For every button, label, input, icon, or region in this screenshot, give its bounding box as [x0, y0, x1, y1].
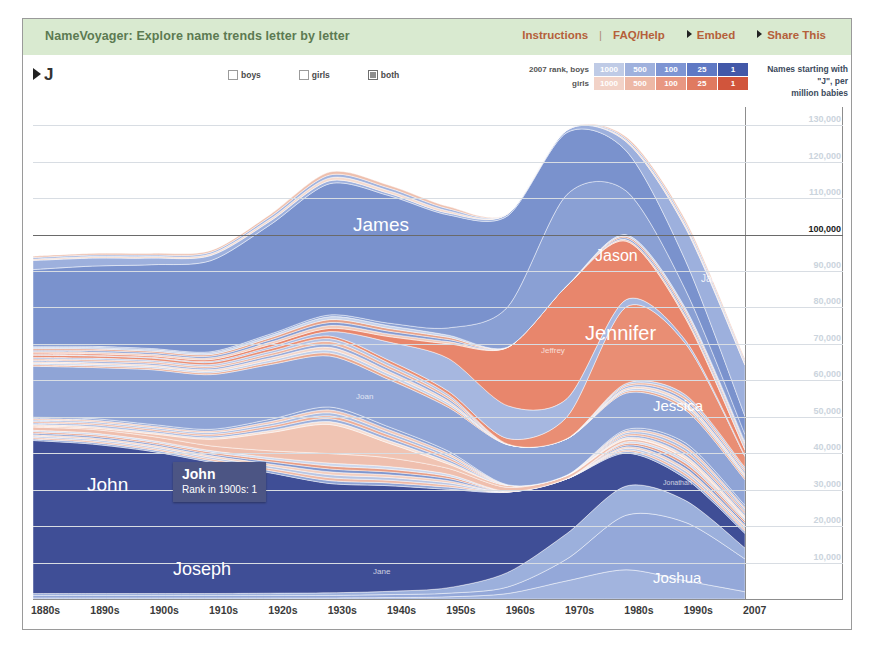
rank-swatch-girls-1000: 1000 [594, 77, 624, 90]
rank-legend-girls-label: girls [503, 77, 594, 90]
y-axis-caption: Names starting with "J", per million bab… [750, 63, 848, 99]
rank-legend-boys-row: 2007 rank, boys 1000 500 100 25 1 [503, 63, 749, 76]
checkbox-both-box[interactable] [368, 70, 378, 80]
page-title: NameVoyager: Explore name trends letter … [45, 29, 350, 43]
rank-swatch-boys-500: 500 [625, 63, 655, 76]
checkbox-girls-label: girls [312, 70, 330, 80]
x-tick-1990s: 1990s [684, 604, 713, 616]
checkbox-boys-box[interactable] [228, 70, 238, 80]
x-tick-1880s: 1880s [31, 604, 60, 616]
x-tick-1930s: 1930s [328, 604, 357, 616]
rank-swatch-boys-1000: 1000 [594, 63, 624, 76]
link-share-label: Share This [767, 29, 826, 41]
checkbox-girls-box[interactable] [299, 70, 309, 80]
rank-swatch-girls-500: 500 [625, 77, 655, 90]
name-voyager-chart[interactable]: 10,00020,00030,00040,00050,00060,00070,0… [33, 107, 843, 599]
rank-swatch-boys-100: 100 [656, 63, 686, 76]
y-axis-caption-line2: "J", per [750, 75, 848, 87]
rank-swatch-girls-100: 100 [656, 77, 686, 90]
app-header: NameVoyager: Explore name trends letter … [23, 19, 851, 55]
x-tick-2007: 2007 [743, 604, 766, 616]
x-axis: 1880s1890s1900s1910s1920s1930s1940s1950s… [33, 599, 843, 624]
x-tick-1980s: 1980s [624, 604, 653, 616]
y-axis-panel [745, 107, 843, 599]
triangle-right-icon [687, 30, 692, 38]
checkbox-both[interactable]: both [368, 70, 399, 80]
control-strip: J boys girls both 2007 rank, boys 1000 5… [23, 55, 851, 107]
stream-graph-svg[interactable] [33, 107, 745, 599]
rank-legend-boys-label: 2007 rank, boys [503, 63, 594, 76]
chevron-right-icon [33, 68, 41, 80]
checkbox-girls[interactable]: girls [299, 70, 330, 80]
x-tick-1890s: 1890s [90, 604, 119, 616]
link-instructions[interactable]: Instructions [511, 29, 599, 41]
x-tick-1960s: 1960s [506, 604, 535, 616]
rank-swatch-girls-1: 1 [718, 77, 748, 90]
search-value: J [44, 65, 55, 84]
rank-legend-girls-row: girls 1000 500 100 25 1 [503, 77, 749, 90]
checkbox-boys[interactable]: boys [228, 70, 261, 80]
rank-swatch-girls-25: 25 [687, 77, 717, 90]
y-axis-caption-line3: million babies [750, 87, 848, 99]
tooltip-rank: Rank in 1900s: 1 [182, 483, 257, 496]
sex-filter-group: boys girls both [228, 70, 399, 80]
search-input[interactable]: J [33, 65, 55, 85]
x-tick-1900s: 1900s [150, 604, 179, 616]
x-tick-1950s: 1950s [446, 604, 475, 616]
namevoyager-app: NameVoyager: Explore name trends letter … [22, 18, 852, 630]
y-axis-caption-line1: Names starting with [750, 63, 848, 75]
triangle-right-icon [757, 30, 762, 38]
link-share-this[interactable]: Share This [746, 29, 837, 41]
checkbox-boys-label: boys [241, 70, 261, 80]
header-links: Instructions | FAQ/Help Embed Share This [511, 29, 837, 41]
x-tick-1970s: 1970s [565, 604, 594, 616]
tooltip: John Rank in 1900s: 1 [173, 462, 266, 502]
rank-legend: 2007 rank, boys 1000 500 100 25 1 girls … [503, 63, 749, 91]
stream-graph-plot[interactable] [33, 107, 745, 599]
link-embed[interactable]: Embed [676, 29, 746, 41]
x-tick-1920s: 1920s [268, 604, 297, 616]
x-tick-1940s: 1940s [387, 604, 416, 616]
x-tick-1910s: 1910s [209, 604, 238, 616]
checkbox-both-label: both [381, 70, 399, 80]
rank-swatch-boys-25: 25 [687, 63, 717, 76]
tooltip-name: John [182, 467, 257, 482]
rank-swatch-boys-1: 1 [718, 63, 748, 76]
link-faq-help[interactable]: FAQ/Help [602, 29, 676, 41]
link-embed-label: Embed [697, 29, 735, 41]
